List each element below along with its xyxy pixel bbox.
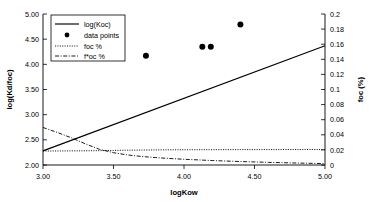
x-axis-tick-labels: 3.00 3.50 4.00 4.50 5.00 [36,172,332,181]
left-axis-tick-labels: 5.00 4.50 4.00 3.50 3.00 2.50 2.00 [25,10,39,170]
right-axis-tick-labels: 0.2 0.18 0.16 0.14 0.12 0.1 0.08 0.06 0.… [330,10,344,170]
x-axis-ticks [43,165,325,169]
left-axis-ticks [43,14,47,165]
legend-label-logkoc: log(Koc) [84,20,111,29]
right-axis-ticks [321,14,325,165]
x-axis-title: logKow [170,188,198,197]
y-axis-title: log(Kd/foc) [5,69,14,110]
right-tick-label: 0.14 [330,55,344,64]
data-point [143,53,149,59]
legend: log(Koc) data points foc % f*oc % [51,15,125,61]
x-tick-label: 3.00 [36,172,50,181]
right-tick-label: 0.12 [330,70,344,79]
legend-label-data-points: data points [84,31,120,40]
right-tick-label: 0.06 [330,115,344,124]
left-tick-label: 4.50 [25,35,39,44]
x-tick-label: 5.00 [318,172,332,181]
data-point [199,44,205,50]
series-fstar-oc-line [43,127,325,163]
right-tick-label: 0.2 [330,10,340,19]
left-tick-label: 3.50 [25,85,39,94]
chart-figure: 5.00 4.50 4.00 3.50 3.00 2.50 2.00 0.2 0… [0,0,373,202]
left-tick-label: 3.00 [25,110,39,119]
right-tick-label: 0.08 [330,100,344,109]
data-point [208,44,214,50]
right-tick-label: 0.1 [330,85,340,94]
y2-axis-title: foc (%) [356,76,365,102]
data-point [237,22,243,28]
series-data-points [143,22,243,59]
left-tick-label: 5.00 [25,10,39,19]
chart-canvas: 5.00 4.50 4.00 3.50 3.00 2.50 2.00 0.2 0… [0,0,373,202]
right-tick-label: 0.18 [330,25,344,34]
legend-label-fstar-oc: f*oc % [84,52,105,61]
left-tick-label: 2.00 [25,161,39,170]
left-tick-label: 4.00 [25,60,39,69]
right-tick-label: 0.04 [330,130,344,139]
legend-swatch-marker [65,33,70,38]
x-tick-label: 3.50 [107,172,121,181]
right-tick-label: 0.02 [330,146,344,155]
series-logkoc-line [43,46,325,151]
x-tick-label: 4.50 [248,172,262,181]
right-tick-label: 0 [330,161,334,170]
x-tick-label: 4.00 [177,172,191,181]
series-foc-line [43,150,325,152]
right-tick-label: 0.16 [330,40,344,49]
legend-label-foc: foc % [84,42,103,51]
left-tick-label: 2.50 [25,135,39,144]
